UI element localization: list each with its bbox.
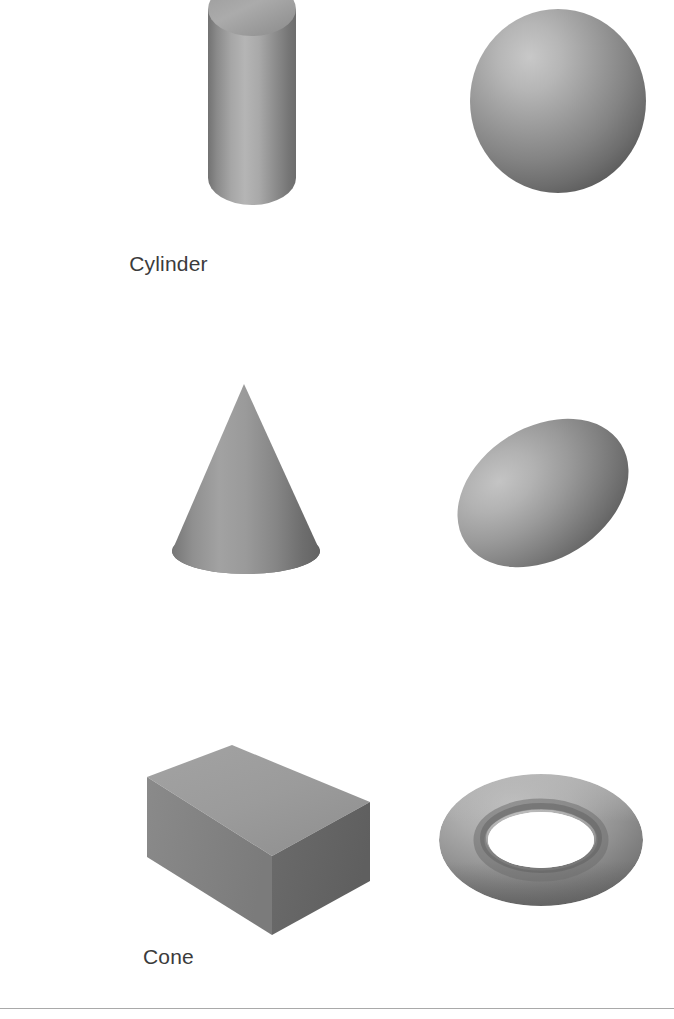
ellipsoid-3d-icon — [461, 410, 625, 576]
shape-cell-cone: Cone — [0, 340, 337, 680]
shape-cell-sphere: Sphere — [337, 0, 674, 340]
torus-3d-icon — [439, 770, 643, 910]
sphere-3d-icon — [470, 6, 646, 196]
bottom-divider — [0, 1008, 674, 1009]
shape-cell-torus: Torus — [337, 680, 674, 1019]
cylinder-3d-icon — [208, 0, 296, 212]
shape-gallery-figure: Cylinder Sphere — [0, 0, 674, 1019]
shape-cell-cylinder: Cylinder — [0, 0, 337, 340]
shape-cell-box: Box — [0, 680, 337, 1019]
cone-3d-icon — [172, 384, 320, 574]
box-3d-icon — [130, 745, 370, 935]
shape-caption-cylinder: Cylinder — [0, 252, 337, 276]
shape-cell-ellipsoid: Ellipsoid — [337, 340, 674, 680]
